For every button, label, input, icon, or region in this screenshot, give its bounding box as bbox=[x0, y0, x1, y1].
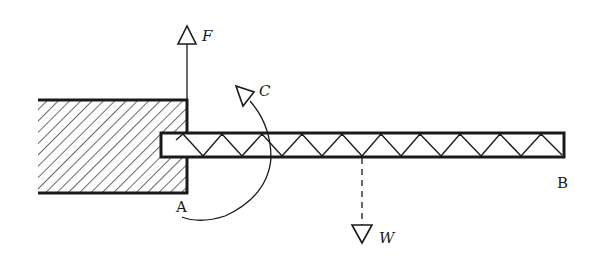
arrowhead-down-icon bbox=[352, 225, 372, 243]
force-f-arrow bbox=[178, 26, 196, 100]
truss-beam bbox=[161, 133, 564, 157]
arrowhead-up-icon bbox=[178, 26, 196, 44]
label-f: F bbox=[201, 27, 213, 45]
label-point-a: A bbox=[175, 198, 187, 216]
label-point-b: B bbox=[557, 174, 568, 192]
diagram-canvas: F C W A B bbox=[0, 0, 595, 262]
label-c: C bbox=[259, 82, 271, 100]
weight-w-arrow bbox=[352, 158, 372, 243]
label-w: W bbox=[379, 229, 396, 247]
